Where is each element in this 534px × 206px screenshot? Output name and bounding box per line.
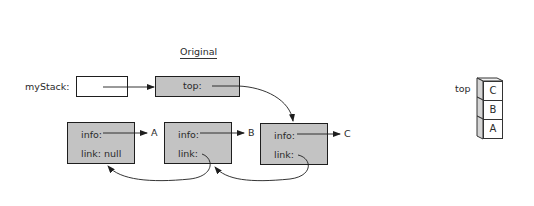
stack-item-c: C [483, 81, 503, 101]
stack-item-b: B [483, 100, 503, 120]
stack-item-a: A [483, 119, 503, 139]
stack-3d-sides [0, 0, 534, 206]
